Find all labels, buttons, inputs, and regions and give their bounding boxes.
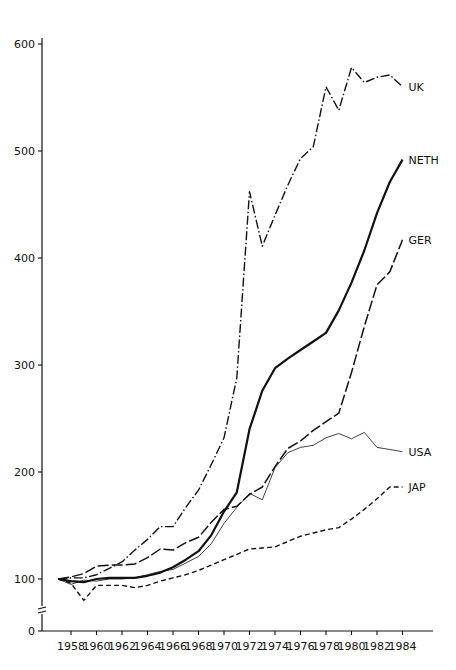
x-tick-label: 1982	[363, 640, 391, 653]
x-tick-label: 1970	[210, 640, 238, 653]
y-tick-label: 400	[14, 252, 35, 265]
series-label-usa: USA	[409, 446, 432, 459]
axis-break-mark	[38, 607, 46, 613]
x-axis: 1958196019621964196619681970197219741976…	[42, 631, 433, 653]
series-label-neth: NETH	[409, 154, 439, 167]
series-label-jap: JAP	[408, 481, 427, 494]
series-layer	[58, 68, 402, 601]
y-tick-label: 200	[14, 466, 35, 479]
x-tick-label: 1964	[134, 640, 162, 653]
y-tick-label: 0	[28, 625, 35, 638]
x-tick-label: 1976	[287, 640, 315, 653]
x-tick-label: 1984	[389, 640, 417, 653]
series-label-ger: GER	[409, 234, 432, 247]
x-tick-label: 1968	[185, 640, 213, 653]
y-axis: 0100200300400500600	[14, 38, 46, 638]
line-chart: 0100200300400500600 19581960196219641966…	[0, 0, 456, 670]
x-tick-label: 1962	[108, 640, 136, 653]
x-tick-label: 1966	[159, 640, 187, 653]
y-tick-label: 500	[14, 145, 35, 158]
x-tick-label: 1958	[57, 640, 85, 653]
x-tick-label: 1972	[236, 640, 264, 653]
x-tick-label: 1974	[261, 640, 289, 653]
x-tick-label: 1980	[338, 640, 366, 653]
series-line-usa	[58, 432, 402, 584]
x-tick-label: 1960	[83, 640, 111, 653]
series-line-jap	[58, 487, 402, 600]
x-tick-label: 1978	[312, 640, 340, 653]
y-tick-label: 100	[14, 573, 35, 586]
y-tick-label: 600	[14, 38, 35, 51]
series-labels: UKNETHGERUSAJAP	[408, 81, 439, 494]
series-label-uk: UK	[409, 81, 425, 94]
y-tick-label: 300	[14, 359, 35, 372]
